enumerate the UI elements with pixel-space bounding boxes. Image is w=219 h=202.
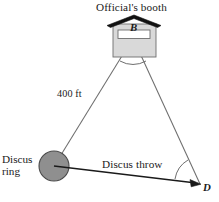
- angle-arc-d: [175, 160, 188, 179]
- angle-arc-b: [120, 61, 146, 64]
- discus-throw-diagram: Official's booth B 400 ft Discusring Dis…: [0, 0, 219, 202]
- diagram-canvas: [0, 0, 219, 202]
- vertex-label-b: B: [130, 22, 137, 34]
- throw-arrowhead-icon: [190, 180, 201, 187]
- discus-ring-label-line1: Discus: [2, 153, 32, 165]
- discus-ring-label: Discusring: [2, 153, 32, 177]
- vertex-label-d: D: [203, 182, 211, 194]
- discus-throw-label: Discus throw: [102, 158, 163, 170]
- officials-booth-label: Official's booth: [96, 1, 167, 13]
- distance-label-400ft: 400 ft: [57, 88, 82, 99]
- discus-ring-label-line2: ring: [2, 165, 32, 177]
